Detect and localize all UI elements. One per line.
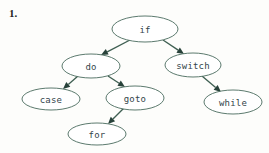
edge-switch-to-while: [202, 76, 221, 92]
edge-if-to-switch: [163, 40, 184, 54]
graph-node-case[interactable]: case: [22, 88, 80, 110]
node-label: for: [89, 130, 106, 140]
diagram-page: 1. ifdoswitchcasegotowhilefor: [0, 0, 269, 153]
edge-goto-to-for: [108, 108, 124, 124]
edge-line: [107, 40, 130, 52]
edge-line: [202, 76, 216, 87]
graph-node-do[interactable]: do: [62, 54, 120, 78]
graph-node-while[interactable]: while: [204, 90, 262, 114]
node-label: while: [219, 98, 247, 108]
nodes-layer: ifdoswitchcasegotowhilefor: [22, 16, 262, 145]
directed-graph-canvas: ifdoswitchcasegotowhilefor: [0, 0, 269, 153]
node-label: if: [139, 25, 150, 35]
node-label: case: [40, 95, 62, 105]
arrowhead-icon: [176, 48, 184, 54]
graph-node-goto[interactable]: goto: [106, 86, 164, 110]
edge-do-to-goto: [108, 76, 125, 87]
edges-layer: [63, 40, 221, 124]
node-label: goto: [124, 94, 146, 104]
edge-line: [163, 40, 178, 50]
edge-if-to-do: [101, 40, 130, 55]
edge-line: [113, 108, 124, 119]
graph-node-switch[interactable]: switch: [165, 53, 221, 77]
node-label: do: [85, 62, 96, 72]
edge-line: [68, 76, 78, 84]
edge-line: [108, 76, 119, 83]
graph-node-if[interactable]: if: [112, 16, 178, 42]
graph-node-for[interactable]: for: [68, 123, 126, 145]
node-label: switch: [176, 61, 210, 71]
edge-do-to-case: [63, 76, 78, 89]
arrowhead-icon: [117, 81, 125, 87]
